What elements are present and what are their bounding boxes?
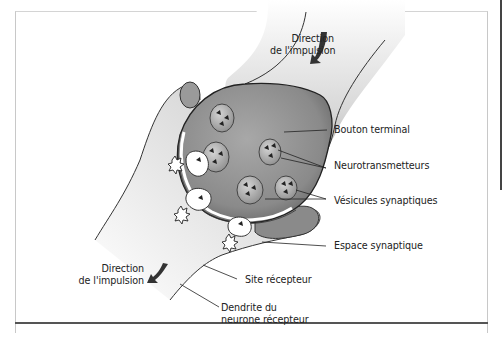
label-vesicules-synaptiques: Vésicules synaptiques	[334, 195, 437, 207]
vesicle	[259, 139, 281, 165]
label-direction-bottom: Direction de l'impulsion	[72, 263, 144, 287]
vesicle	[237, 176, 263, 204]
label-espace-synaptique: Espace synaptique	[334, 240, 423, 252]
label-direction-top: Direction de l'impulsion	[270, 33, 334, 57]
label-dendrite-line2: neurone récepteur	[221, 314, 309, 326]
label-direction-bottom-line2: de l'impulsion	[72, 275, 144, 287]
synapse-diagram	[0, 0, 502, 347]
label-direction-top-line2: de l'impulsion	[270, 45, 334, 57]
label-site-recepteur: Site récepteur	[245, 274, 312, 286]
label-direction-top-line1: Direction	[270, 33, 334, 45]
label-dendrite-line1: Dendrite du	[221, 302, 309, 314]
label-neurotransmetteurs: Neurotransmetteurs	[334, 160, 429, 172]
label-dendrite: Dendrite du neurone récepteur	[221, 302, 309, 326]
label-direction-bottom-line1: Direction	[72, 263, 144, 275]
fusing-vesicle	[228, 217, 251, 236]
label-bouton-terminal: Bouton terminal	[334, 124, 410, 136]
fusing-vesicle	[186, 188, 211, 210]
vesicle	[275, 176, 297, 200]
vesicle	[210, 104, 234, 132]
